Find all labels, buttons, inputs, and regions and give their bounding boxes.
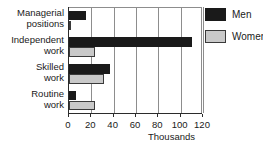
category-label-line-1: Routine bbox=[31, 88, 64, 99]
legend-swatch-women bbox=[205, 30, 226, 43]
x-tick bbox=[90, 114, 91, 117]
x-tick-label-0: 0 bbox=[65, 119, 70, 130]
bar-men-independent-work bbox=[69, 37, 192, 47]
x-tick bbox=[157, 114, 158, 117]
legend-item-women: Women bbox=[205, 30, 263, 43]
x-tick bbox=[202, 114, 203, 117]
gridline bbox=[91, 7, 92, 113]
category-label-routine-work: Routine work bbox=[0, 89, 64, 110]
category-label-skilled-work: Skilled work bbox=[0, 62, 64, 83]
gridline bbox=[203, 7, 204, 113]
bar-men-routine-work bbox=[69, 91, 76, 101]
bar-women-skilled-work bbox=[69, 74, 104, 84]
x-tick bbox=[135, 114, 136, 117]
x-tick-label-60: 60 bbox=[130, 119, 141, 130]
bar-women-routine-work bbox=[69, 101, 95, 111]
x-tick-label-80: 80 bbox=[152, 119, 163, 130]
x-tick-label-40: 40 bbox=[107, 119, 118, 130]
category-label-line-1: Independent bbox=[11, 34, 64, 45]
plot-right-border bbox=[201, 7, 202, 113]
gridline bbox=[136, 7, 137, 113]
bar-women-independent-work bbox=[69, 47, 95, 57]
category-label-line-2: work bbox=[0, 100, 64, 111]
x-tick bbox=[68, 114, 69, 117]
gridline bbox=[181, 7, 182, 113]
category-label-managerial-positions: Managerial positions bbox=[0, 8, 64, 29]
x-tick bbox=[113, 114, 114, 117]
legend-item-men: Men bbox=[205, 8, 263, 21]
x-axis-title: Thousands bbox=[148, 131, 195, 142]
bar-men-skilled-work bbox=[69, 64, 110, 74]
plot-area bbox=[68, 7, 202, 114]
x-tick bbox=[180, 114, 181, 117]
bar-chart: Managerial positions Independent work Sk… bbox=[0, 0, 263, 149]
gridline bbox=[158, 7, 159, 113]
legend-label-women: Women bbox=[232, 31, 263, 42]
bar-men-managerial-positions bbox=[69, 11, 86, 21]
legend-label-men: Men bbox=[232, 9, 251, 20]
x-tick-label-120: 120 bbox=[194, 119, 210, 130]
x-tick-label-20: 20 bbox=[85, 119, 96, 130]
category-label-line-2: work bbox=[0, 46, 64, 57]
category-label-line-1: Skilled bbox=[36, 61, 64, 72]
bar-women-managerial-positions bbox=[69, 21, 71, 31]
category-label-line-1: Managerial bbox=[17, 7, 64, 18]
x-tick-label-100: 100 bbox=[172, 119, 188, 130]
legend: Men Women bbox=[205, 8, 263, 52]
category-label-line-2: positions bbox=[0, 19, 64, 30]
legend-swatch-men bbox=[205, 8, 226, 21]
category-label-line-2: work bbox=[0, 73, 64, 84]
category-label-independent-work: Independent work bbox=[0, 35, 64, 56]
gridline bbox=[114, 7, 115, 113]
